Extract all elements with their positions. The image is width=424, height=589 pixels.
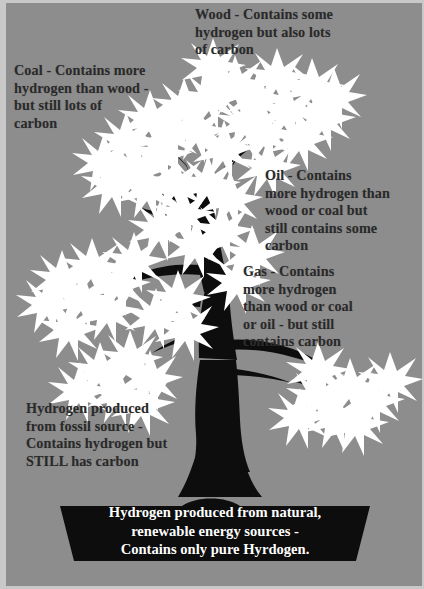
callout-wood: Wood - Contains some hydrogen but also l… xyxy=(195,6,410,59)
callout-coal: Coal - Contains more hydrogen than wood … xyxy=(14,62,204,132)
callout-fossil-hydrogen: Hydrogen produced from fossil source - C… xyxy=(26,400,206,470)
callout-oil: Oil - Contains more hydrogen than wood o… xyxy=(265,167,421,255)
poster-canvas: Wood - Contains some hydrogen but also l… xyxy=(0,0,424,589)
banner-label: Hydrogen produced from natural, renewabl… xyxy=(60,503,370,559)
callout-gas: Gas - Contains more hydrogen than wood o… xyxy=(243,263,408,351)
